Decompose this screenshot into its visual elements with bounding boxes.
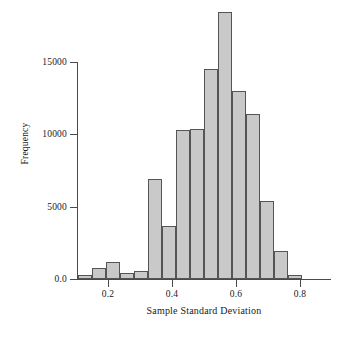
histogram-bar — [190, 129, 204, 279]
x-axis-title: Sample Standard Deviation — [78, 305, 330, 317]
histogram-figure: 0.050001000015000 0.20.40.60.8 Frequency… — [0, 0, 348, 337]
histogram-bars — [78, 8, 330, 279]
histogram-bar — [176, 130, 190, 279]
y-axis-tick-label: 5000 — [47, 202, 67, 212]
y-axis-tick — [70, 279, 77, 280]
histogram-bar — [204, 69, 218, 279]
x-axis-tick — [108, 280, 109, 287]
y-axis-tick-label: 15000 — [42, 57, 67, 67]
y-axis-line — [77, 62, 78, 280]
histogram-bar — [134, 271, 148, 279]
plot-area — [78, 8, 330, 279]
x-axis-tick — [300, 280, 301, 287]
y-axis-tick — [70, 207, 77, 208]
x-axis-line — [77, 279, 331, 280]
histogram-bar — [260, 201, 274, 279]
x-axis-tick — [236, 280, 237, 287]
x-axis-tick-label: 0.2 — [93, 289, 123, 300]
histogram-bar — [92, 268, 106, 279]
histogram-bar — [232, 91, 246, 279]
x-axis-tick — [172, 280, 173, 287]
x-axis-tick-label: 0.6 — [221, 289, 251, 300]
histogram-bar — [148, 179, 162, 279]
y-axis-tick — [70, 62, 77, 63]
histogram-bar — [106, 262, 120, 279]
y-axis-tick-label: 0.0 — [55, 274, 67, 284]
x-axis-tick-label: 0.8 — [285, 289, 315, 300]
y-axis-tick — [70, 134, 77, 135]
histogram-bar — [162, 226, 176, 279]
histogram-bar — [246, 114, 260, 279]
y-axis-title: Frequency — [18, 8, 32, 279]
y-axis-tick-label: 10000 — [42, 129, 67, 139]
histogram-bar — [274, 251, 288, 279]
histogram-bar — [218, 12, 232, 279]
x-axis-tick-label: 0.4 — [157, 289, 187, 300]
